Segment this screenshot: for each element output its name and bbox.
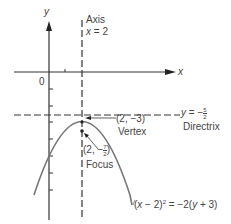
focus-label: Focus [86,159,113,170]
y-axis-arrow-icon [46,21,52,31]
directrix-label: Directrix [183,121,220,132]
parabola-equation: (x − 2)2 = −2(y + 3) [134,197,217,210]
vertex-point [80,120,83,123]
axis-label: Axis [86,14,105,25]
axis-equation: x = 2 [86,26,108,37]
vertex-label: Vertex [118,126,146,137]
directrix-equation: y = −52 [181,107,207,120]
vertex-pointer-arrow-icon [85,116,91,120]
x-axis-arrow-icon [165,69,176,75]
vertex-coords: (2, −3) [116,113,145,124]
x-axis-label: x [178,66,183,77]
focus-coords: (2, −72) [83,144,110,157]
origin-label: 0 [39,76,45,87]
focus-point [80,129,84,133]
y-axis-label: y [44,6,49,17]
